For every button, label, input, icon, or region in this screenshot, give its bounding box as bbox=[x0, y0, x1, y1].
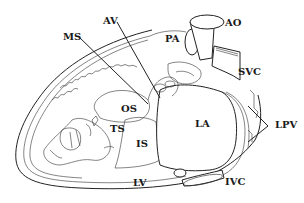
label-av: AV bbox=[102, 15, 118, 26]
label-lpv: LPV bbox=[275, 119, 298, 130]
label-lv: LV bbox=[133, 177, 147, 188]
label-pa: PA bbox=[165, 33, 180, 44]
left-ventricle bbox=[44, 90, 160, 168]
left-atrium bbox=[157, 85, 249, 176]
label-is: IS bbox=[136, 138, 148, 149]
inferior-vena-cava bbox=[174, 169, 224, 188]
label-ao: AO bbox=[224, 17, 242, 28]
pulmonary-veins bbox=[248, 90, 258, 142]
label-svc: SVC bbox=[238, 66, 261, 77]
label-os: OS bbox=[121, 103, 137, 114]
label-la: LA bbox=[195, 118, 210, 129]
label-ms: MS bbox=[63, 31, 81, 42]
label-ivc: IVC bbox=[225, 176, 245, 187]
label-ts: TS bbox=[110, 123, 125, 134]
superior-vena-cava bbox=[212, 46, 240, 80]
heart-diagram: AV MS AO PA SVC OS TS IS LA LPV LV IVC bbox=[0, 0, 304, 203]
